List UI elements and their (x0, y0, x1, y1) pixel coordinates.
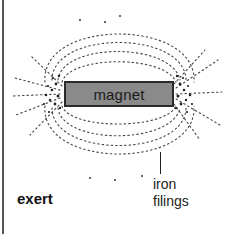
caption-word: exert (17, 190, 53, 207)
bar-magnet: magnet (64, 81, 174, 107)
magnet-label: magnet (93, 86, 144, 103)
filings-pointer-line (160, 152, 161, 174)
diagram-panel: magnet iron filings exert (0, 0, 227, 234)
iron-filings-label-line2: filings (153, 193, 189, 210)
iron-filings-label: iron filings (153, 176, 189, 210)
iron-filings-label-line1: iron (153, 176, 189, 193)
